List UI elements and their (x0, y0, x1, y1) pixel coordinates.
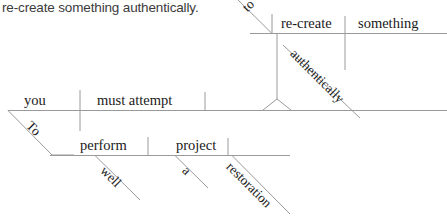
word-perform: perform (80, 137, 127, 154)
word-re-create: re-create (281, 15, 332, 32)
word-something: something (358, 15, 418, 32)
diagram-lines (0, 0, 447, 220)
upper-phrase-tripod-left (263, 99, 277, 110)
upper-phrase-tripod-right (277, 99, 291, 110)
word-you: you (24, 92, 46, 109)
word-must-attempt: must attempt (97, 92, 172, 109)
word-project: project (176, 137, 216, 154)
sentence-diagram-canvas: re-create something authentically. (0, 0, 447, 220)
